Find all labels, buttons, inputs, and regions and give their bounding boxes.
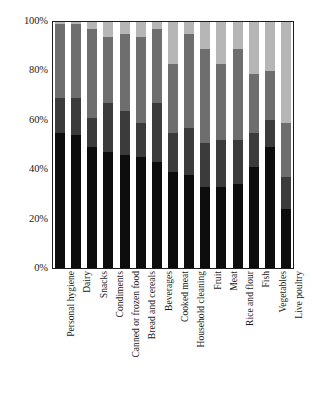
bar-segment-series-4 <box>103 22 113 37</box>
bar-segment-series-3 <box>249 74 259 133</box>
bar-meat <box>216 22 226 268</box>
x-axis-label-dairy: Dairy <box>79 271 89 293</box>
bar-segment-series-4 <box>87 22 97 29</box>
bar-segment-series-1 <box>216 187 226 268</box>
stacked-bar-chart: 100% 80% 60% 40% 20% 0% Personal hygiene… <box>0 0 312 396</box>
bar-segment-series-1 <box>87 147 97 268</box>
bar-bread-and-cereals <box>136 22 146 268</box>
bar-segment-series-1 <box>200 187 210 268</box>
x-axis-label-snacks: Snacks <box>96 271 106 298</box>
bar-segment-series-3 <box>103 37 113 103</box>
bar-beverages <box>152 22 162 268</box>
bar-segment-series-2 <box>249 133 259 167</box>
x-axis-label-cooked-meat: Cooked meat <box>177 271 187 322</box>
bar-segment-series-4 <box>249 22 259 74</box>
bar-segment-series-2 <box>87 118 97 148</box>
x-axis-label-text: Household cleaning <box>196 271 206 347</box>
x-axis-label-fruit: Fruit <box>210 271 220 290</box>
bar-segment-series-3 <box>55 24 65 98</box>
bar-segment-series-3 <box>120 34 130 110</box>
bar-segment-series-4 <box>120 22 130 34</box>
bar-segment-series-2 <box>71 98 81 135</box>
bar-segment-series-3 <box>216 64 226 140</box>
x-axis-label-text: Meat <box>229 271 239 291</box>
y-tick-label-60: 60% <box>29 115 48 126</box>
bar-segment-series-2 <box>168 133 178 172</box>
bar-segment-series-3 <box>281 123 291 177</box>
x-axis-label-live-poultry: Live poultry <box>291 271 301 319</box>
bar-segment-series-4 <box>281 22 291 123</box>
y-axis: 100% 80% 60% 40% 20% 0% <box>0 0 52 396</box>
bar-segment-series-2 <box>200 143 210 187</box>
x-axis-label-household-cleaning: Household cleaning <box>193 271 203 347</box>
bar-segment-series-1 <box>249 167 259 268</box>
bar-dairy <box>71 22 81 268</box>
bar-segment-series-2 <box>281 177 291 209</box>
bar-segment-series-3 <box>200 49 210 142</box>
bar-segment-series-4 <box>265 22 275 71</box>
bar-segment-series-4 <box>184 22 194 34</box>
bar-segment-series-3 <box>87 29 97 118</box>
bar-segment-series-3 <box>136 37 146 123</box>
x-axis-label-text: Canned or frozen food <box>131 271 141 358</box>
x-axis-label-text: Snacks <box>99 271 109 298</box>
plot-area <box>52 21 294 269</box>
bar-segment-series-4 <box>233 22 243 49</box>
bar-segment-series-4 <box>136 22 146 37</box>
bar-segment-series-3 <box>152 29 162 103</box>
bar-household-cleaning <box>184 22 194 268</box>
bar-fish <box>249 22 259 268</box>
bar-segment-series-1 <box>265 147 275 268</box>
x-axis-label-rice-and-flour: Rice and flour <box>242 271 252 326</box>
y-tick-label-80: 80% <box>29 65 48 76</box>
bar-segment-series-1 <box>120 155 130 268</box>
bar-segment-series-1 <box>233 184 243 268</box>
x-axis-label-fish: Fish <box>258 271 268 288</box>
x-axis-label-vegetables: Vegetables <box>275 271 285 313</box>
bar-segment-series-3 <box>184 34 194 127</box>
x-axis-label-text: Fruit <box>213 271 223 290</box>
bar-vegetables <box>265 22 275 268</box>
bar-segment-series-1 <box>103 152 113 268</box>
bar-cooked-meat <box>168 22 178 268</box>
y-tick-label-40: 40% <box>29 164 48 175</box>
x-axis-label-meat: Meat <box>226 271 236 291</box>
bar-segment-series-3 <box>265 71 275 120</box>
x-axis-label-text: Fish <box>261 271 271 288</box>
bar-segment-series-2 <box>233 140 243 184</box>
y-tick-label-100: 100% <box>24 16 48 27</box>
bar-segment-series-2 <box>265 120 275 147</box>
bar-segment-series-2 <box>216 140 226 187</box>
x-axis-label-canned-or-frozen-food: Canned or frozen food <box>128 271 138 358</box>
bar-segment-series-2 <box>120 111 130 155</box>
bar-segment-series-1 <box>184 175 194 268</box>
x-axis-label-beverages: Beverages <box>161 271 171 311</box>
x-axis-label-text: Vegetables <box>278 271 288 313</box>
x-axis-label-text: Bread and cereals <box>147 271 157 339</box>
bar-segment-series-2 <box>103 103 113 152</box>
bar-fruit <box>200 22 210 268</box>
x-axis-label-text: Personal hygiene <box>66 271 76 337</box>
x-axis-label-text: Condiments <box>115 271 125 317</box>
x-axis-label-text: Rice and flour <box>245 271 255 326</box>
x-axis-label-text: Cooked meat <box>180 271 190 322</box>
bar-segment-series-3 <box>168 64 178 133</box>
bar-segment-series-1 <box>55 133 65 268</box>
x-axis-label-bread-and-cereals: Bread and cereals <box>144 271 154 339</box>
bar-segment-series-2 <box>55 98 65 132</box>
bar-segment-series-3 <box>71 24 81 98</box>
bar-segment-series-3 <box>233 49 243 140</box>
bar-segment-series-2 <box>152 103 162 162</box>
bar-segment-series-4 <box>216 22 226 64</box>
bar-segment-series-4 <box>168 22 178 64</box>
x-axis-label-condiments: Condiments <box>112 271 122 317</box>
x-axis-label-text: Dairy <box>82 271 92 293</box>
bar-segment-series-1 <box>281 209 291 268</box>
bar-condiments <box>103 22 113 268</box>
bar-canned-or-frozen-food <box>120 22 130 268</box>
x-axis-label-personal-hygiene: Personal hygiene <box>63 271 73 337</box>
bar-snacks <box>87 22 97 268</box>
bar-segment-series-2 <box>184 128 194 175</box>
bar-segment-series-1 <box>152 162 162 268</box>
x-axis-label-text: Live poultry <box>294 271 304 319</box>
